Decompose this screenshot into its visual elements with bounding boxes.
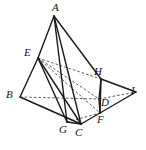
vertex-label-i: I xyxy=(131,85,135,96)
edge-D-F xyxy=(99,99,100,113)
vertex-label-e: E xyxy=(24,47,31,58)
edge-B-D-hidden xyxy=(20,97,99,99)
geometry-figure: AEBGCFDHI xyxy=(0,0,146,150)
visible-edges-group xyxy=(20,16,136,124)
figure-canvas xyxy=(0,0,146,150)
edge-E-B xyxy=(20,58,38,97)
vertex-label-f: F xyxy=(97,114,104,125)
vertex-label-g: G xyxy=(59,124,67,135)
edge-A-C xyxy=(54,16,81,124)
vertex-label-b: B xyxy=(6,89,13,100)
vertex-label-h: H xyxy=(94,66,102,77)
vertex-label-d: D xyxy=(101,97,109,108)
edge-G-C xyxy=(67,122,81,124)
vertex-label-c: C xyxy=(75,127,82,138)
vertex-label-a: A xyxy=(52,2,59,13)
edge-A-E xyxy=(38,16,54,58)
